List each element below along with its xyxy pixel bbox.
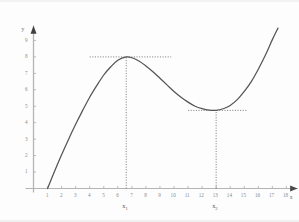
extrema-guide-lines [90, 57, 247, 189]
x-tick-label: 18 [283, 193, 288, 198]
axes-group [26, 26, 298, 193]
minimum-x-label: x2 [212, 203, 218, 212]
x-tick-label: 2 [60, 193, 63, 198]
chart-figure: 123456789101112131415161718123456789 y x… [0, 0, 299, 222]
x-tick-label: 13 [213, 193, 218, 198]
y-tick-label: 5 [25, 104, 28, 109]
x-axis-label: x [290, 195, 293, 201]
x-tick-label: 17 [269, 193, 274, 198]
y-axis-arrowhead [31, 26, 37, 34]
x-tick-label: 16 [255, 193, 260, 198]
y-tick-label: 9 [25, 38, 28, 43]
y-tick-label: 8 [25, 54, 28, 59]
y-tick-label: 2 [25, 153, 28, 158]
series-curve [48, 28, 278, 188]
curve-path [48, 28, 278, 188]
x-tick-label: 8 [144, 193, 147, 198]
x-tick-label: 3 [74, 193, 77, 198]
y-tick-label: 4 [25, 120, 28, 125]
crit-label-subscript: 1 [125, 206, 127, 211]
x-tick-label: 5 [102, 193, 105, 198]
x-tick-label: 11 [185, 193, 190, 198]
maximum-x-label: x1 [122, 203, 128, 212]
x-tick-label: 6 [116, 193, 119, 198]
x-tick-label: 10 [171, 193, 176, 198]
x-axis-arrowhead [290, 186, 298, 192]
x-tick-label: 7 [130, 193, 133, 198]
x-tick-label: 9 [158, 193, 161, 198]
y-tick-label: 3 [25, 137, 28, 142]
x-tick-label: 14 [227, 193, 232, 198]
y-axis-label: y [22, 27, 25, 33]
x-tick-label: 4 [88, 193, 91, 198]
y-tick-label: 7 [25, 71, 28, 76]
x-tick-label: 12 [199, 193, 204, 198]
y-tick-label: 6 [25, 87, 28, 92]
x-tick-label: 15 [241, 193, 246, 198]
crit-label-subscript: 2 [215, 206, 217, 211]
x-tick-label: 1 [46, 193, 49, 198]
cubic-curve-plot [0, 0, 299, 222]
axis-ticks [34, 40, 287, 188]
y-tick-label: 1 [25, 169, 28, 174]
